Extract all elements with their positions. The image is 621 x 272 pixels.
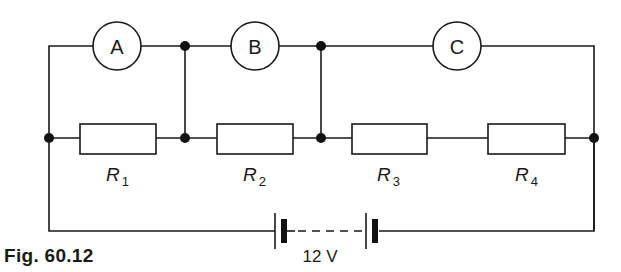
circuit-diagram: A B C R1 R2 R3 R4 [0,0,621,272]
junction-dot [180,133,190,143]
junction-dot [316,133,326,143]
meter-a: A [93,22,141,70]
resistor-r3 [352,124,427,154]
battery-branch: 12 V [49,138,594,266]
meter-c-label: C [450,36,464,58]
junction-dot [180,41,190,51]
resistor-r2-label: R2 [243,164,266,189]
resistor-r1-label: R1 [106,164,129,189]
meter-b-label: B [248,36,261,58]
figure-caption: Fig. 60.12 [4,245,94,267]
junction-dot [316,41,326,51]
meter-a-label: A [110,36,124,58]
resistor-r4-label: R4 [515,164,538,189]
meter-b: B [231,22,279,70]
meter-c: C [433,22,481,70]
resistor-r2 [217,124,293,154]
battery-voltage-label: 12 V [303,247,339,266]
resistor-r3-label: R3 [377,164,400,189]
battery-icon [275,213,378,249]
resistor-r4 [488,124,565,154]
resistor-r1 [80,124,156,154]
